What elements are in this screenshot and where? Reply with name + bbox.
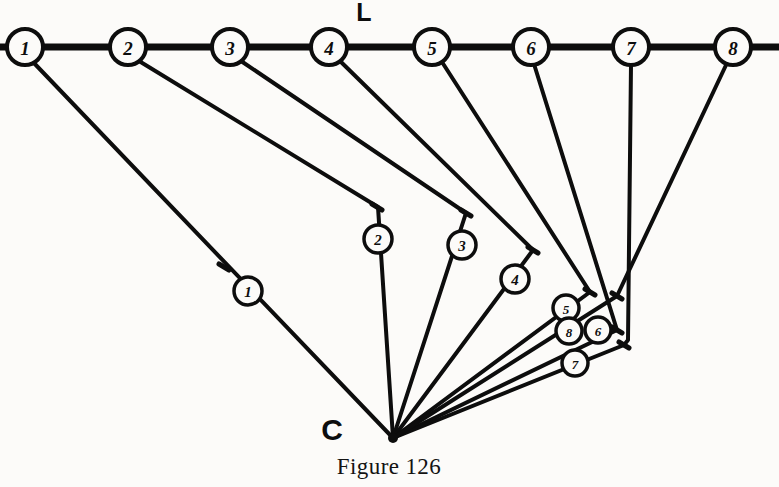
baseline-node-5[interactable]: 5 <box>414 29 450 65</box>
baseline-label-L: L <box>356 0 371 26</box>
ray-marker-3[interactable]: 3 <box>448 231 476 259</box>
baseline-node-7[interactable]: 7 <box>613 29 649 65</box>
baseline-node-8[interactable]: 8 <box>715 29 751 65</box>
node-label-6: 6 <box>526 38 536 59</box>
marker-label-8: 8 <box>566 325 573 340</box>
ray-marker-6[interactable]: 6 <box>585 317 611 343</box>
node-label-5: 5 <box>427 38 437 59</box>
node-label-3: 3 <box>224 38 235 59</box>
ray-marker-1[interactable]: 1 <box>234 277 262 305</box>
ray-marker-2[interactable]: 2 <box>364 225 392 253</box>
baseline-node-4[interactable]: 4 <box>311 29 347 65</box>
baseline-node-2[interactable]: 2 <box>110 29 146 65</box>
baseline-node-1[interactable]: 1 <box>7 29 43 65</box>
ray-marker-7[interactable]: 7 <box>562 350 588 376</box>
marker-label-1: 1 <box>244 284 252 300</box>
marker-label-2: 2 <box>373 232 382 248</box>
node-label-7: 7 <box>626 38 637 59</box>
baseline-node-3[interactable]: 3 <box>212 29 248 65</box>
marker-label-7: 7 <box>572 357 579 372</box>
node-label-2: 2 <box>122 38 133 59</box>
node-label-8: 8 <box>728 38 738 59</box>
center-label-C: C <box>321 413 343 446</box>
marker-label-3: 3 <box>457 238 466 254</box>
marker-label-4: 4 <box>510 272 519 288</box>
marker-label-6: 6 <box>595 324 602 339</box>
figure-diagram: 12345678 12345678 L C Figure 126 <box>0 0 779 487</box>
baseline-node-6[interactable]: 6 <box>513 29 549 65</box>
ray-marker-8[interactable]: 8 <box>556 318 582 344</box>
node-label-4: 4 <box>323 38 334 59</box>
figure-page: 12345678 12345678 L C Figure 126 <box>0 0 779 487</box>
node-label-1: 1 <box>20 38 30 59</box>
center-point-C <box>388 433 398 443</box>
ray-marker-4[interactable]: 4 <box>501 265 529 293</box>
figure-caption: Figure 126 <box>337 454 441 479</box>
marker-label-5: 5 <box>563 302 570 317</box>
